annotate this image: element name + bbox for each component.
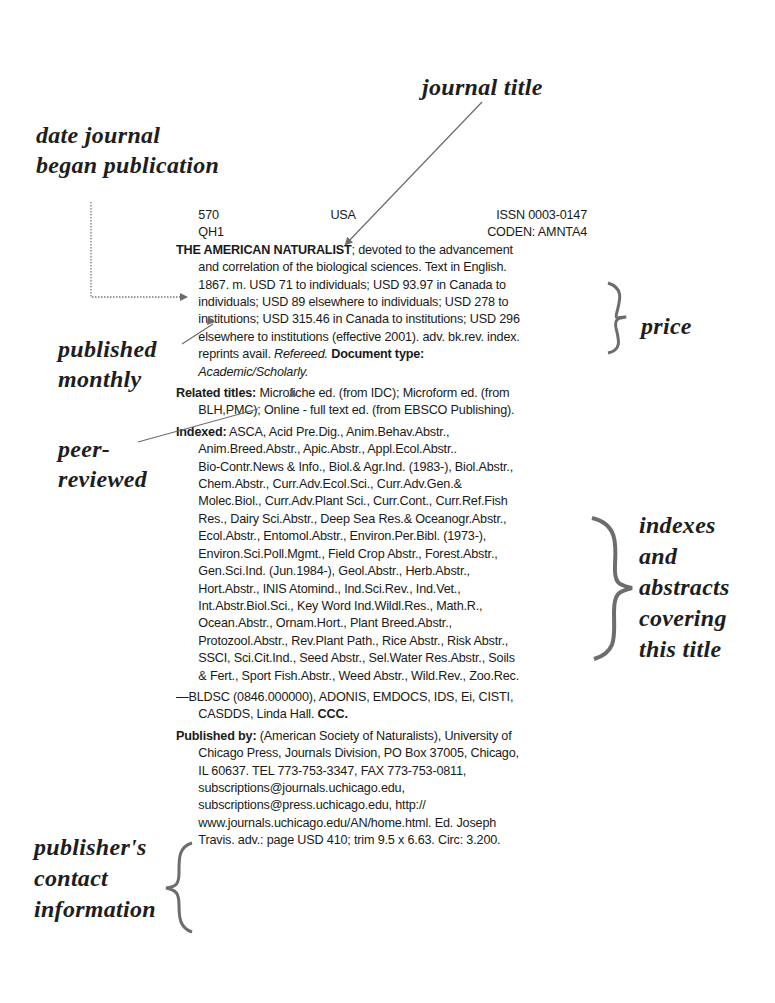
document-supply-line: —BLDSC (0846.000000), ADONIS, EMDOCS, ID…: [176, 688, 585, 705]
published-by-line: subscriptions@press.uchicago.edu, http:/…: [176, 796, 585, 813]
description-line: elsewhere to institutions (effective 200…: [176, 328, 585, 345]
lc-class: QH1: [198, 223, 223, 240]
annotation-text: price: [641, 311, 692, 341]
published-by-line: Travis. adv.: page USD 410; trim 9.5 x 6…: [176, 831, 585, 848]
related-titles-line: Microfiche ed. (from IDC); Microform ed.…: [256, 385, 509, 400]
indexed-line: Gen.Sci.Ind. (Jun.1984-), Geol.Abstr., H…: [176, 562, 585, 579]
description-line: 1867. m. USD 71 to individuals; USD 93.9…: [176, 276, 585, 293]
indexed-line: Res., Dairy Sci.Abstr., Deep Sea Res.& O…: [176, 510, 585, 527]
directory-entry: 570 USA ISSN 0003-0147 QH1 CODEN: AMNTA4…: [176, 206, 585, 849]
indexes-brace-icon: [592, 518, 632, 659]
published-by-line: subscriptions@journals.uchicago.edu,: [176, 779, 585, 796]
annotation-peer-reviewed: peer- reviewed: [58, 434, 147, 494]
document-supply-block: —BLDSC (0846.000000), ADONIS, EMDOCS, ID…: [176, 688, 585, 723]
annotation-journal-title: journal title: [422, 72, 543, 102]
annotation-text: publisher's: [34, 832, 156, 863]
published-by-line: (American Society of Naturalists), Unive…: [256, 728, 511, 743]
indexed-line: ASCA, Acid Pre.Dig., Anim.Behav.Abstr.,: [226, 424, 449, 439]
doc-type-value: Academic/Scholarly.: [198, 364, 308, 379]
title-block: THE AMERICAN NATURALIST; devoted to the …: [176, 241, 585, 380]
indexed-line: SSCI, Sci.Cit.Ind., Seed Abstr., Sel.Wat…: [176, 649, 585, 666]
description-line: institutions; USD 315.46 in Canada to in…: [176, 310, 585, 327]
entry-header-row-2: QH1 CODEN: AMNTA4: [176, 223, 585, 240]
annotation-text: monthly: [58, 364, 157, 394]
annotation-text: journal title: [422, 72, 543, 102]
document-supply-line: CASDDS, Linda Hall.: [198, 706, 317, 721]
indexed-line: Hort.Abstr., INIS Atomind., Ind.Sci.Rev.…: [176, 580, 585, 597]
related-titles-line: BLH,PMC); Online - full text ed. (from E…: [176, 401, 585, 418]
issn: ISSN 0003-0147: [496, 206, 587, 223]
annotation-published-monthly: published monthly: [58, 334, 157, 394]
annotation-text: covering: [639, 603, 730, 634]
annotation-text: peer-: [58, 434, 147, 464]
description-line: and correlation of the biological scienc…: [176, 258, 585, 275]
annotation-publisher-contact: publisher's contact information: [34, 832, 156, 925]
indexed-line: & Fert., Sport Fish.Abstr., Weed Abstr.,…: [176, 667, 585, 684]
dewey-number: 570: [198, 206, 219, 223]
indexed-line: Anim.Breed.Abstr., Apic.Abstr., Appl.Eco…: [176, 440, 585, 457]
annotation-text: this title: [639, 634, 730, 665]
related-titles-block: Related titles: Microfiche ed. (from IDC…: [176, 384, 585, 419]
indexed-line: Int.Abstr.Biol.Sci., Key Word Ind.Wildl.…: [176, 597, 585, 614]
annotation-text: published: [58, 334, 157, 364]
entry-header-row-1: 570 USA ISSN 0003-0147: [176, 206, 585, 223]
doc-type-label: Document type:: [328, 346, 424, 361]
annotation-text: contact: [34, 863, 156, 894]
ccc-text: CCC.: [318, 706, 348, 721]
annotation-text: information: [34, 894, 156, 925]
indexed-line: Ecol.Abstr., Entomol.Abstr., Environ.Per…: [176, 527, 585, 544]
coden: CODEN: AMNTA4: [487, 223, 587, 240]
annotation-indexes: indexes and abstracts covering this titl…: [639, 510, 730, 665]
date-began-arrow-icon: [91, 202, 186, 297]
annotation-text: reviewed: [58, 464, 147, 494]
indexed-line: Bio-Contr.News & Info., Biol.& Agr.Ind. …: [176, 458, 585, 475]
annotation-text: abstracts: [639, 572, 730, 603]
description-line: individuals; USD 89 elsewhere to individ…: [176, 293, 585, 310]
description-line: ; devoted to the advancement: [352, 242, 513, 257]
published-by-line: IL 60637. TEL 773-753-3347, FAX 773-753-…: [176, 762, 585, 779]
indexed-label: Indexed:: [176, 424, 226, 439]
published-by-label: Published by:: [176, 728, 256, 743]
price-brace-icon: [608, 283, 626, 353]
annotation-text: indexes: [639, 510, 730, 541]
annotation-text: began publication: [36, 150, 219, 180]
reprints-text: reprints avail.: [198, 346, 274, 361]
indexed-line: Molec.Biol., Curr.Adv.Plant Sci., Curr.C…: [176, 492, 585, 509]
published-by-line: Chicago Press, Journals Division, PO Box…: [176, 744, 585, 761]
indexed-block: Indexed: ASCA, Acid Pre.Dig., Anim.Behav…: [176, 423, 585, 684]
indexed-line: Ocean.Abstr., Ornam.Hort., Plant Breed.A…: [176, 614, 585, 631]
indexed-line: Environ.Sci.Poll.Mgmt., Field Crop Abstr…: [176, 545, 585, 562]
published-by-block: Published by: (American Society of Natur…: [176, 727, 585, 849]
journal-title: THE AMERICAN NATURALIST: [176, 242, 352, 257]
annotation-text: and: [639, 541, 730, 572]
related-titles-label: Related titles:: [176, 385, 256, 400]
refereed-text: Refereed.: [274, 346, 328, 361]
indexed-line: Chem.Abstr., Curr.Adv.Ecol.Sci., Curr.Ad…: [176, 475, 585, 492]
publisher-contact-brace-icon: [166, 843, 192, 932]
published-by-line: www.journals.uchicago.edu/AN/home.html. …: [176, 814, 585, 831]
annotation-date-began: date journal began publication: [36, 120, 219, 180]
annotation-price: price: [641, 311, 692, 341]
indexed-line: Protozool.Abstr., Rev.Plant Path., Rice …: [176, 632, 585, 649]
country: USA: [330, 206, 355, 223]
annotation-text: date journal: [36, 120, 219, 150]
